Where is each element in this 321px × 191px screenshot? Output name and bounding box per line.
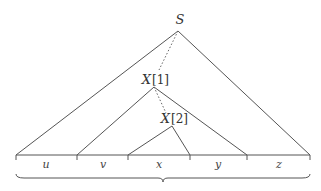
x1-label: X <box>141 72 152 87</box>
x1-left-edge <box>77 87 154 155</box>
root-to-x1-path <box>159 31 178 70</box>
segment-x: x <box>156 158 163 171</box>
x2-label: X <box>160 111 171 126</box>
root-left-edge <box>16 31 178 155</box>
x2-left-edge <box>128 126 172 155</box>
x2-index: [2] <box>171 112 188 126</box>
x2-right-edge <box>172 126 190 155</box>
root-label: S <box>176 12 185 27</box>
segment-v: v <box>100 158 107 171</box>
underbrace <box>16 174 310 182</box>
root-right-edge <box>178 31 310 155</box>
segment-y: y <box>214 158 222 171</box>
segment-u: u <box>42 158 49 171</box>
segment-z: z <box>275 158 282 171</box>
parse-tree-diagram: S X [1] X [2] u v x y z <box>0 0 321 191</box>
x1-index: [1] <box>152 73 169 87</box>
